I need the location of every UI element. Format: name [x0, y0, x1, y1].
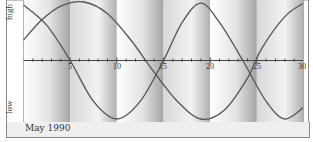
tick-label-25: 25 [253, 62, 261, 71]
tick-label-5: 5 [68, 62, 72, 71]
tick-label-20: 20 [206, 62, 214, 71]
y-label-low: low [4, 96, 18, 118]
month-label: May 1990 [25, 123, 70, 133]
y-label-high: high [4, 2, 18, 22]
month-footer: May 1990 [6, 122, 310, 138]
tick-label-10: 10 [113, 62, 121, 71]
tick-label-15: 15 [159, 62, 167, 71]
tick-label-30: 30 [298, 62, 306, 71]
chart-plot-svg [0, 0, 313, 142]
biorhythm-chart: high low 5 10 15 20 25 30 May 1990 [0, 0, 313, 142]
